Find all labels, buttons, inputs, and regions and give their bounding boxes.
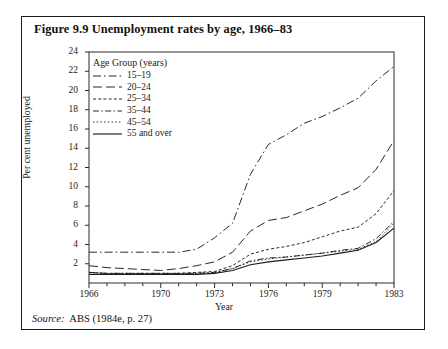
y-tick-label: 12	[56, 162, 78, 172]
legend-title: Age Group (years)	[93, 57, 172, 68]
source-value: ABS (1984e, p. 27)	[69, 313, 152, 324]
y-tick-label: 2	[56, 258, 78, 268]
x-tick-label: 1983	[374, 289, 414, 299]
legend-label: 35–44	[127, 105, 151, 116]
legend-label: 20–24	[127, 82, 151, 93]
y-tick-label: 22	[56, 65, 78, 75]
series-line-45-54	[89, 223, 394, 273]
legend-swatch-icon	[93, 94, 122, 104]
legend-item: 25–34	[93, 93, 172, 105]
y-tick-label: 16	[56, 123, 78, 133]
x-tick-label: 1979	[302, 289, 342, 299]
series-line-25-34	[89, 191, 394, 274]
series-line-20-24	[89, 141, 394, 271]
y-tick-label: 4	[56, 239, 78, 249]
legend-label: 45–54	[127, 117, 151, 128]
y-tick-label: 20	[56, 85, 78, 95]
legend-item: 35–44	[93, 105, 172, 117]
source-line: Source: ABS (1984e, p. 27)	[32, 313, 152, 324]
y-tick-label: 14	[56, 142, 78, 152]
series-line-55-and-over	[89, 228, 394, 274]
legend-item: 55 and over	[93, 128, 172, 140]
source-key: Source:	[32, 313, 65, 324]
x-axis-label: Year	[0, 301, 448, 312]
x-tick-label: 1966	[69, 289, 109, 299]
legend-swatch-icon	[93, 106, 122, 116]
legend-label: 55 and over	[127, 128, 172, 139]
chart-plot-area	[21, 16, 425, 330]
legend-item: 20–24	[93, 82, 172, 94]
legend-item: 45–54	[93, 116, 172, 128]
y-tick-label: 18	[56, 104, 78, 114]
legend-swatch-icon	[93, 71, 122, 81]
chart-svg	[21, 16, 425, 330]
y-tick-label: 10	[56, 181, 78, 191]
x-tick-label: 1970	[141, 289, 181, 299]
chart-legend: Age Group (years) 15–1920–2425–3435–4445…	[93, 57, 172, 140]
legend-swatch-icon	[93, 129, 122, 139]
y-tick-label: 8	[56, 200, 78, 210]
x-tick-label: 1973	[195, 289, 235, 299]
legend-label: 25–34	[127, 93, 151, 104]
x-tick-label: 1976	[248, 289, 288, 299]
y-axis-label: Per cent unemployed	[21, 78, 32, 198]
legend-swatch-icon	[93, 82, 122, 92]
legend-label: 15–19	[127, 70, 151, 81]
legend-item: 15–19	[93, 70, 172, 82]
legend-rows: 15–1920–2425–3435–4445–5455 and over	[93, 70, 172, 140]
legend-swatch-icon	[93, 117, 122, 127]
y-tick-label: 6	[56, 219, 78, 229]
y-tick-label: 24	[56, 46, 78, 56]
